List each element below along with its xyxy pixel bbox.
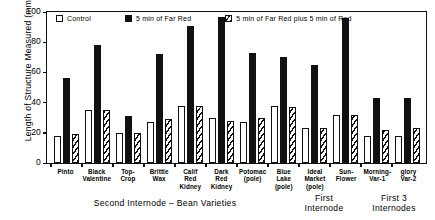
- caption-first-3-internodes: First 3 Internodes: [358, 193, 430, 213]
- caption-first-internode: First Internode: [296, 193, 352, 213]
- bar-control: [240, 122, 248, 163]
- bar-farredred: [227, 121, 235, 163]
- bar-group: [113, 12, 144, 163]
- legend-label: 5 min of Far Red plus 5 min of Red: [236, 15, 351, 22]
- x-axis-label-line: Top-: [112, 168, 143, 175]
- x-tick-mark: [267, 163, 268, 167]
- x-axis-label-line: Ideal: [299, 168, 330, 175]
- x-tick-mark: [391, 163, 392, 167]
- bar-farred: [94, 45, 102, 163]
- bar-farredred: [196, 106, 204, 163]
- x-tick-mark: [329, 163, 330, 167]
- legend-label: 5 min of Far Red: [136, 15, 191, 22]
- bar-group: [330, 12, 361, 163]
- x-axis-label-line: Black: [81, 168, 112, 175]
- x-axis-label-line: (pole): [268, 183, 299, 190]
- x-axis-label-line: Var-2: [393, 175, 424, 182]
- bar-farred: [187, 26, 195, 163]
- x-axis-label-line: Dark: [206, 168, 237, 175]
- x-tick-mark: [50, 163, 51, 167]
- bar-farredred: [103, 110, 111, 163]
- legend-item: Control: [56, 15, 91, 22]
- x-axis-label-line: Sun-: [331, 168, 362, 175]
- x-tick-mark: [174, 163, 175, 167]
- x-tick-mark: [360, 163, 361, 167]
- x-axis-label-line: Morning-: [362, 168, 393, 175]
- x-axis-label-line: Market: [299, 175, 330, 182]
- x-tick-mark: [143, 163, 144, 167]
- x-axis-label-line: (pole): [299, 183, 330, 190]
- y-tick-label: 20: [19, 127, 41, 137]
- x-axis-label-line: Blue: [268, 168, 299, 175]
- x-axis-label-line: Var-1: [362, 175, 393, 182]
- chart-legend: Control5 min of Far Red5 min of Far Red …: [56, 15, 352, 22]
- bar-group: [299, 12, 330, 163]
- bar-farredred: [289, 107, 297, 163]
- control-swatch: [56, 15, 63, 22]
- bar-farred: [156, 54, 164, 163]
- bar-group: [392, 12, 423, 163]
- x-axis-label-line: Kidney: [206, 183, 237, 190]
- bar-series-container: [47, 12, 426, 163]
- bar-control: [178, 106, 186, 163]
- bar-control: [333, 115, 341, 163]
- bar-farredred: [351, 115, 359, 163]
- bar-farredred: [320, 128, 328, 163]
- bar-group: [175, 12, 206, 163]
- x-tick-mark: [298, 163, 299, 167]
- bar-group: [206, 12, 237, 163]
- y-tick-label: 0: [19, 157, 41, 167]
- bar-group: [237, 12, 268, 163]
- far-red-plus-red-swatch: [225, 15, 232, 22]
- bar-farredred: [165, 119, 173, 163]
- far-red-swatch: [125, 15, 132, 22]
- y-tick-label: 100: [19, 6, 41, 16]
- bar-control: [364, 136, 372, 163]
- bar-control: [54, 136, 62, 163]
- bar-group: [82, 12, 113, 163]
- bar-control: [85, 110, 93, 163]
- bar-farredred: [258, 118, 266, 163]
- y-tick-label: 80: [19, 36, 41, 46]
- bar-control: [147, 122, 155, 163]
- x-axis-label-line: Potomac: [237, 168, 268, 175]
- x-tick-mark: [205, 163, 206, 167]
- x-axis-label-line: glory: [393, 168, 424, 175]
- x-axis-label-line: (pole): [237, 175, 268, 182]
- bar-farred: [311, 65, 319, 163]
- x-axis-label-line: Valentine: [81, 175, 112, 182]
- y-tick-label: 60: [19, 66, 41, 76]
- bar-farred: [280, 57, 288, 163]
- caption-second-internode: Second Internode – Bean Varieties: [40, 198, 290, 208]
- x-tick-mark: [81, 163, 82, 167]
- x-axis-label-line: Pinto: [50, 168, 81, 175]
- x-axis-label-line: Red: [175, 175, 206, 182]
- plot-area: 020406080100: [46, 11, 427, 164]
- bar-control: [302, 128, 310, 163]
- y-tick-label: 40: [19, 97, 41, 107]
- bar-chart-figure: Length of Structure Measured (mm) 020406…: [0, 0, 435, 220]
- bar-group: [144, 12, 175, 163]
- legend-item: 5 min of Far Red plus 5 min of Red: [225, 15, 351, 22]
- bar-farred: [63, 78, 71, 163]
- bar-farred: [404, 98, 412, 163]
- x-axis-label-line: Flower: [331, 175, 362, 182]
- x-axis-label-line: Brittle: [144, 168, 175, 175]
- bar-group: [51, 12, 82, 163]
- bar-farred: [373, 98, 381, 163]
- bar-farred: [249, 53, 257, 163]
- x-axis-label-line: Crop: [112, 175, 143, 182]
- bar-farred: [342, 18, 350, 163]
- bar-group: [268, 12, 299, 163]
- x-tick-mark: [236, 163, 237, 167]
- bar-farredred: [413, 128, 421, 163]
- bar-control: [271, 106, 279, 163]
- bar-farred: [125, 116, 133, 163]
- bar-farredred: [72, 134, 80, 163]
- x-axis-label-line: Wax: [144, 175, 175, 182]
- legend-item: 5 min of Far Red: [125, 15, 191, 22]
- x-axis-label-line: Red: [206, 175, 237, 182]
- x-axis-label-line: Kidney: [175, 183, 206, 190]
- bar-group: [361, 12, 392, 163]
- bar-farredred: [382, 130, 390, 163]
